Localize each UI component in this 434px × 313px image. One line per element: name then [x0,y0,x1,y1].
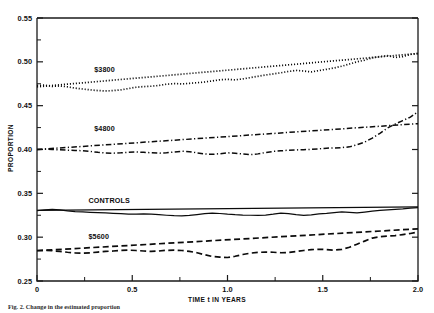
y-axis-tick-labels: 0.250.300.350.400.450.500.55 [18,14,32,286]
x-axis-title: TIME t IN YEARS [188,296,246,303]
x-axis-tick-labels: 00.51.01.52.0 [35,285,423,294]
series-4800 [37,112,418,155]
x-tick-label: 1.5 [318,285,328,294]
y-axis-title: PROPORTION [7,124,14,172]
y-tick-label: 0.55 [18,14,32,23]
axis-ticks [37,18,418,281]
series-label-3800: $3800 [94,65,115,74]
y-tick-label: 0.45 [18,101,32,110]
plot-frame [37,18,418,281]
x-tick-label: 0 [35,285,39,294]
x-tick-label: 1.0 [222,285,232,294]
series-label-4800: $4800 [94,124,115,133]
figure-container: 0.250.300.350.400.450.500.55 00.51.01.52… [0,0,434,313]
trend-line [37,207,418,211]
x-tick-label: 2.0 [413,285,423,294]
figure-caption: Fig. 2. Change in the estimated proporti… [8,303,120,310]
series-label-controls: CONTROLS [88,196,130,205]
y-tick-label: 0.50 [18,57,32,66]
y-tick-label: 0.30 [18,233,32,242]
y-tick-label: 0.25 [18,277,32,286]
series-label-5600: $5600 [88,232,109,241]
proportion-vs-time-chart: 0.250.300.350.400.450.500.55 00.51.01.52… [0,0,434,313]
y-tick-label: 0.40 [18,145,32,154]
y-tick-label: 0.35 [18,189,32,198]
data-series-group [37,54,418,258]
series-controls [37,207,418,216]
plot-frame-path [37,18,418,281]
data-line [37,112,418,155]
x-tick-label: 0.5 [127,285,137,294]
